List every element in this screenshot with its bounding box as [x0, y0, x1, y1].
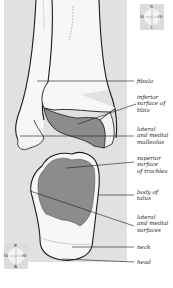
label-body-of-talus: body of talus: [137, 189, 158, 202]
compass-right-label: m: [22, 253, 26, 258]
compass-bottom-label: A: [14, 264, 17, 269]
compass-left-label: lo: [140, 14, 144, 19]
label-neck: neck: [137, 244, 150, 250]
compass-bottom-label: I: [151, 25, 152, 30]
label-lateral-and-medial-malleolus: lateral and medial malleolus: [137, 126, 168, 145]
orientation-compass-superior-inferior: S I lo m: [140, 4, 164, 30]
label-fibula: fibula: [137, 78, 153, 84]
compass-right-label: m: [158, 14, 162, 19]
compass-top-label: S: [150, 4, 153, 9]
label-head: head: [137, 259, 151, 265]
orientation-compass-posterior-anterior: P A lo m: [4, 243, 28, 269]
label-lateral-and-medial-surfaces: lateral and medial surfaces: [137, 214, 168, 233]
compass-left-label: lo: [4, 253, 8, 258]
label-inferior-surface-of-tibia: inferior surface of tibia: [137, 94, 165, 113]
label-superior-surface-of-trochlea: superior surface of trochlea: [137, 155, 168, 174]
compass-top-label: P: [14, 243, 17, 248]
